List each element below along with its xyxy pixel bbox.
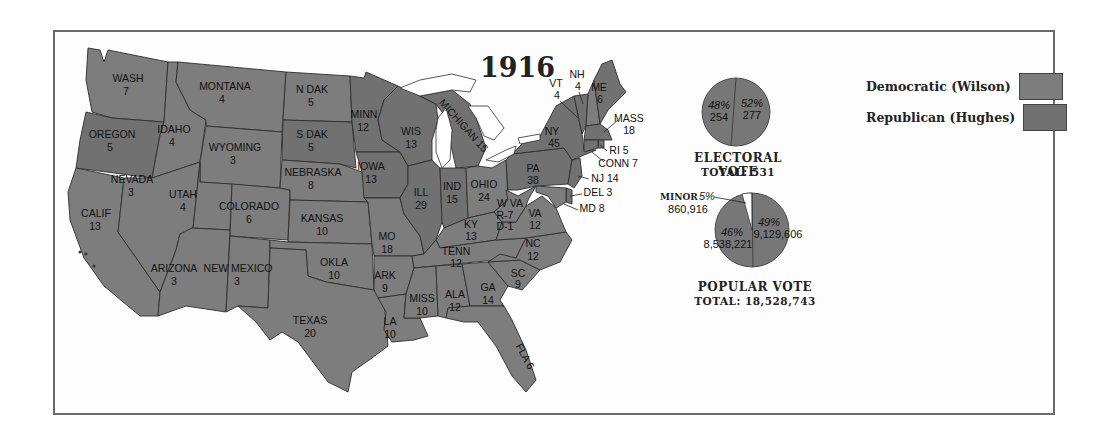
label-idaho: IDAHO bbox=[157, 123, 190, 135]
label-okla: OKLA bbox=[320, 256, 348, 268]
svg-text:254: 254 bbox=[710, 111, 728, 123]
svg-text:5: 5 bbox=[308, 141, 314, 153]
svg-text:13: 13 bbox=[89, 220, 101, 232]
svg-text:5%: 5% bbox=[699, 190, 715, 202]
electoral-vote-total: TOTAL: 531 bbox=[683, 166, 793, 178]
state-massachusetts[interactable] bbox=[584, 124, 612, 140]
legend-item-democratic: Democratic (Wilson) bbox=[866, 73, 1063, 100]
svg-text:10: 10 bbox=[416, 305, 428, 317]
svg-text:10: 10 bbox=[328, 269, 340, 281]
label-ri: RI 5 bbox=[609, 144, 628, 156]
label-md: MD 8 bbox=[579, 202, 604, 214]
label-ark: ARK bbox=[374, 269, 396, 281]
popular-vote-total: TOTAL: 18,528,743 bbox=[680, 295, 830, 307]
svg-text:20: 20 bbox=[304, 327, 316, 339]
democratic-swatch bbox=[1019, 73, 1063, 100]
republican-swatch bbox=[1023, 104, 1067, 131]
svg-text:49%: 49% bbox=[758, 216, 780, 228]
svg-text:10: 10 bbox=[316, 225, 328, 237]
svg-text:8,538,221: 8,538,221 bbox=[704, 238, 753, 250]
state-rhode-island[interactable] bbox=[598, 140, 604, 148]
state-colorado[interactable] bbox=[230, 184, 290, 240]
label-newmexico: NEW MEXICO bbox=[204, 262, 273, 274]
label-pa: PA bbox=[526, 162, 539, 174]
label-kansas: KANSAS bbox=[301, 212, 344, 224]
svg-text:38: 38 bbox=[527, 174, 539, 186]
label-va: VA bbox=[528, 207, 541, 219]
svg-text:5: 5 bbox=[107, 141, 113, 153]
svg-text:18: 18 bbox=[381, 243, 393, 255]
svg-text:3: 3 bbox=[234, 275, 240, 287]
label-minn: MINN bbox=[351, 108, 378, 120]
label-wis: WIS bbox=[401, 125, 421, 137]
svg-text:12: 12 bbox=[450, 257, 462, 269]
svg-text:13: 13 bbox=[465, 230, 477, 242]
label-nh: NH bbox=[569, 68, 584, 80]
label-colorado: COLORADO bbox=[219, 200, 279, 212]
state-oregon[interactable] bbox=[76, 112, 164, 178]
popular-vote-caption: POPULAR VOTE bbox=[680, 280, 830, 294]
label-nebraska: NEBRASKA bbox=[284, 166, 341, 178]
label-ny: NY bbox=[545, 125, 560, 137]
svg-text:4: 4 bbox=[219, 93, 225, 105]
label-iowa: IOWA bbox=[357, 160, 385, 172]
svg-text:3: 3 bbox=[128, 186, 134, 198]
legend-item-republican: Republican (Hughes) bbox=[866, 104, 1067, 131]
label-oregon: OREGON bbox=[89, 128, 136, 140]
svg-text:14: 14 bbox=[482, 294, 494, 306]
svg-text:8: 8 bbox=[308, 179, 314, 191]
label-mass: MASS bbox=[614, 112, 644, 124]
label-nj: NJ 14 bbox=[591, 172, 619, 184]
svg-text:52%: 52% bbox=[741, 97, 763, 109]
svg-text:6: 6 bbox=[246, 213, 252, 225]
label-del: DEL 3 bbox=[584, 186, 613, 198]
label-wyoming: WYOMING bbox=[209, 141, 262, 153]
svg-text:4: 4 bbox=[169, 136, 175, 148]
label-arizona: ARIZONA bbox=[151, 262, 198, 274]
svg-text:48%: 48% bbox=[708, 99, 730, 111]
svg-text:7: 7 bbox=[123, 85, 129, 97]
label-nc: NC bbox=[525, 237, 541, 249]
svg-text:5: 5 bbox=[308, 96, 314, 108]
svg-text:12: 12 bbox=[449, 301, 461, 313]
label-wva: W VA bbox=[497, 197, 523, 209]
lake-superior bbox=[400, 74, 476, 96]
popular-vote-pie: 49% 9,129,606 46% 8,538,221 MINOR 5% 860… bbox=[660, 190, 802, 267]
svg-text:860,916: 860,916 bbox=[668, 203, 708, 215]
label-tenn: TENN bbox=[442, 245, 471, 257]
state-wyoming[interactable] bbox=[200, 126, 282, 188]
label-montana: MONTANA bbox=[199, 80, 251, 92]
svg-text:6: 6 bbox=[597, 93, 603, 105]
label-ky: KY bbox=[464, 218, 478, 230]
label-conn: CONN 7 bbox=[598, 157, 638, 169]
label-ala: ALA bbox=[445, 288, 465, 300]
label-me: ME bbox=[591, 81, 607, 93]
state-iowa[interactable] bbox=[356, 152, 408, 198]
svg-text:3: 3 bbox=[230, 154, 236, 166]
label-ohio: OHIO bbox=[471, 178, 498, 190]
state-ndak[interactable] bbox=[283, 72, 352, 122]
label-nevada: NEVADA bbox=[111, 173, 153, 185]
electoral-vote-pie: 48% 254 52% 277 bbox=[702, 78, 770, 146]
svg-text:15: 15 bbox=[446, 193, 458, 205]
svg-text:9,129,606: 9,129,606 bbox=[754, 228, 803, 240]
label-mo: MO bbox=[379, 230, 396, 242]
label-ill: ILL bbox=[414, 186, 429, 198]
state-newmexico[interactable] bbox=[226, 236, 270, 312]
label-miss: MISS bbox=[409, 292, 435, 304]
svg-text:MINOR: MINOR bbox=[660, 192, 698, 202]
label-wash: WASH bbox=[112, 72, 143, 84]
svg-text:9: 9 bbox=[382, 282, 388, 294]
label-calif: CALIF bbox=[81, 207, 111, 219]
svg-text:13: 13 bbox=[365, 173, 377, 185]
svg-text:10: 10 bbox=[384, 328, 396, 340]
svg-text:4: 4 bbox=[575, 80, 581, 92]
label-la: LA bbox=[384, 315, 397, 327]
svg-text:9: 9 bbox=[515, 278, 521, 290]
svg-text:46%: 46% bbox=[721, 226, 743, 238]
svg-text:12: 12 bbox=[527, 250, 539, 262]
svg-text:4: 4 bbox=[180, 201, 186, 213]
label-ga: GA bbox=[480, 281, 495, 293]
label-ind: IND bbox=[443, 180, 462, 192]
svg-text:277: 277 bbox=[743, 109, 761, 121]
